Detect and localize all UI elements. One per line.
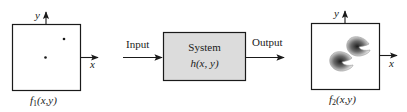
input-panel: y x f1(x,y) (13, 9, 99, 108)
impulse-point (44, 56, 47, 59)
diagram-canvas: y x f1(x,y) Input System h(x, y) Output … (0, 0, 407, 112)
output-arrow-label: Output (252, 36, 283, 48)
y-axis-label: y (333, 7, 339, 19)
x-axis-label: x (89, 58, 95, 70)
input-caption: f1(x,y) (30, 94, 57, 108)
impulse-point (63, 38, 66, 41)
input-arrow-group: Input (123, 38, 162, 58)
x-axis-label: x (388, 57, 394, 69)
caption-args: (x,y) (336, 93, 356, 106)
input-arrow-label: Input (126, 38, 149, 50)
system-function: h(x, y) (190, 57, 218, 70)
y-axis-label: y (34, 9, 40, 21)
caption-args: (x,y) (37, 94, 57, 107)
system-title: System (188, 41, 221, 53)
output-panel: y x f2(x,y) (312, 7, 398, 107)
output-caption: f2(x,y) (329, 93, 356, 107)
system-block: System h(x, y) (164, 33, 246, 81)
output-arrow-group: Output (246, 36, 285, 58)
